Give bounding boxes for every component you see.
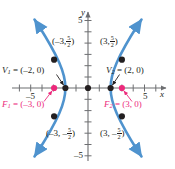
point-upper-left	[51, 57, 57, 63]
point-label-bottom-left-open: (–3, –	[46, 129, 67, 138]
point-label-bottom-right-close: )	[122, 129, 125, 138]
point-focus-left	[51, 85, 57, 91]
vertex-1-label: V1 = (–2, 0)	[2, 66, 44, 76]
leader-v1	[57, 75, 64, 86]
point-label-bottom-left: (–3, – 5 2 )	[46, 127, 75, 141]
point-label-bottom-right-open: (3, –	[100, 129, 117, 138]
focus-2-equation: = (3, 0)	[113, 99, 142, 109]
focus-1-equation: = (–3, 0)	[11, 99, 45, 109]
fraction-bottom-right: 5 2	[117, 127, 122, 141]
fraction-denominator: 2	[67, 133, 72, 140]
leader-v2	[113, 75, 120, 86]
left-branch-upper	[35, 20, 66, 89]
point-label-top-left-close: )	[71, 37, 74, 46]
graph-canvas	[0, 0, 175, 169]
point-label-top-left-open: (–3,	[52, 37, 66, 46]
y-tick-5: 5	[78, 16, 83, 25]
point-label-bottom-left-close: )	[72, 129, 75, 138]
point-vertex-right	[108, 85, 114, 91]
leader-f1	[44, 91, 52, 102]
fraction-denominator: 2	[110, 41, 115, 48]
x-tick-5: 5	[143, 92, 148, 101]
point-vertex-left	[62, 85, 68, 91]
point-upper-right	[119, 57, 125, 63]
point-label-top-left: (–3, 5 2 )	[52, 35, 74, 49]
point-focus-right	[119, 85, 125, 91]
y-tick-neg5: –5	[74, 151, 83, 160]
focus-1-label: F1 = (–3, 0)	[2, 100, 44, 110]
right-branch-upper	[111, 20, 142, 89]
point-lower-right	[119, 113, 125, 119]
point-label-top-right-open: (3,	[100, 37, 110, 46]
vertex-1-equation: = (–2, 0)	[11, 65, 45, 75]
fraction-top-left: 5 2	[66, 35, 71, 49]
fraction-denominator: 2	[66, 41, 71, 48]
fraction-denominator: 2	[117, 133, 122, 140]
point-label-top-right: (3, 5 2 )	[100, 35, 118, 49]
point-label-top-right-close: )	[115, 37, 118, 46]
hyperbola-figure: y x 5 –5 –5 5 V1 = (–2, 0) V2 = (2, 0) F…	[0, 0, 175, 169]
point-center	[85, 85, 91, 91]
vertex-2-equation: = (2, 0)	[115, 65, 144, 75]
focus-2-label: F2 = (3, 0)	[104, 100, 142, 110]
point-lower-left	[51, 113, 57, 119]
fraction-bottom-left: 5 2	[67, 127, 72, 141]
vertex-2-label: V2 = (2, 0)	[106, 66, 144, 76]
fraction-top-right: 5 2	[110, 35, 115, 49]
x-axis-label: x	[160, 90, 164, 99]
point-label-bottom-right: (3, – 5 2 )	[100, 127, 125, 141]
